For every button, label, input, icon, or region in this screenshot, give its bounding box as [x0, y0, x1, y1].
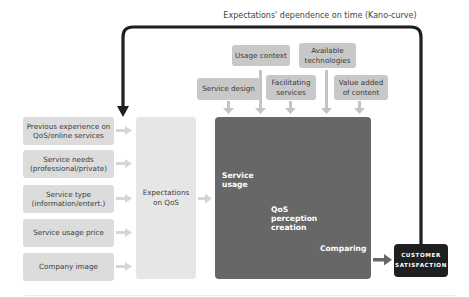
- feedback-arrowhead: [117, 106, 129, 117]
- process-box: Service usage QoS perception creation Co…: [215, 117, 371, 279]
- influence-label: Facilitating: [272, 78, 311, 87]
- influence-label: Available: [305, 46, 351, 55]
- input-service-type: Service type (information/entert.): [23, 185, 114, 213]
- expectations-label: Expectations: [143, 188, 189, 198]
- influence-label: Value added: [339, 78, 384, 87]
- outcome-arrow: [373, 254, 392, 266]
- step-label: creation: [271, 223, 317, 232]
- input-label: Service type: [32, 190, 106, 199]
- input-label: Service needs: [30, 155, 107, 164]
- input-company-image: Company image: [23, 253, 114, 281]
- influence-label: Usage context: [235, 51, 287, 60]
- input-label: (information/entert.): [32, 199, 106, 208]
- step-label: usage: [222, 180, 254, 189]
- input-service-usage-price: Service usage price: [23, 219, 114, 247]
- influence-label: services: [272, 88, 311, 97]
- input-previous-experience: Previous experience on QoS/online servic…: [23, 117, 114, 145]
- customer-satisfaction-box: CUSTOMER SATISFACTION: [394, 244, 448, 277]
- influence-label: Service design: [202, 84, 255, 93]
- expectations-label: on QoS: [143, 198, 189, 208]
- outcome-label: CUSTOMER: [394, 251, 448, 261]
- step-comparing: Comparing: [320, 244, 366, 253]
- input-label: Previous experience on: [27, 122, 111, 131]
- influence-available-technologies: Available technologies: [299, 43, 356, 68]
- input-service-needs: Service needs (professional/private): [23, 150, 114, 178]
- outcome-label: SATISFACTION: [394, 261, 448, 271]
- influence-label: of content: [339, 88, 384, 97]
- step-label: QoS: [271, 205, 317, 214]
- input-arrows: [116, 126, 132, 271]
- expectations-arrow: [198, 194, 212, 204]
- input-label: (professional/private): [30, 164, 107, 173]
- influence-service-design: Service design: [197, 78, 260, 100]
- step-label: perception: [271, 214, 317, 223]
- step-label: Comparing: [320, 244, 366, 253]
- expectations-box: Expectations on QoS: [136, 117, 196, 279]
- step-label: Service: [222, 171, 254, 180]
- influence-value-added: Value added of content: [334, 75, 388, 100]
- divider: [25, 295, 455, 296]
- input-label: Company image: [39, 262, 98, 271]
- step-qos-perception: QoS perception creation: [271, 205, 317, 232]
- feedback-label: Expectations' dependence on time (Kano-c…: [200, 11, 440, 20]
- input-label: Service usage price: [33, 228, 104, 237]
- influence-usage-context: Usage context: [232, 45, 290, 66]
- influence-label: technologies: [305, 56, 351, 65]
- input-label: QoS/online services: [27, 131, 111, 140]
- influence-facilitating-services: Facilitating services: [266, 75, 316, 100]
- step-service-usage: Service usage: [222, 171, 254, 189]
